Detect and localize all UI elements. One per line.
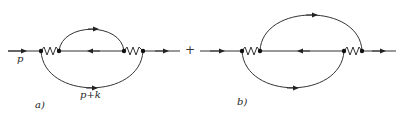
vertex (342, 49, 346, 53)
caption-b: b) (237, 96, 247, 107)
diagram-b (200, 15, 396, 88)
lower-loop (242, 51, 344, 88)
upper-loop (260, 15, 362, 51)
vertex (122, 49, 126, 53)
vertex (360, 49, 364, 53)
diagram-a (8, 29, 180, 88)
feynman-diagrams (0, 0, 401, 115)
photon-propagator-left (41, 47, 59, 55)
vertex (57, 49, 61, 53)
photon-propagator-right (124, 47, 143, 55)
photon-propagator-left (242, 47, 260, 55)
vertex (39, 49, 43, 53)
momentum-label-p: p (17, 53, 23, 64)
plus-operator: + (185, 43, 195, 57)
upper-loop (59, 29, 124, 51)
momentum-label-p-plus-k: p+k (80, 89, 101, 100)
lower-loop (41, 51, 143, 88)
vertex (258, 49, 262, 53)
vertex (240, 49, 244, 53)
caption-a: a) (35, 99, 45, 110)
vertex (141, 49, 145, 53)
photon-propagator-right (344, 47, 362, 55)
